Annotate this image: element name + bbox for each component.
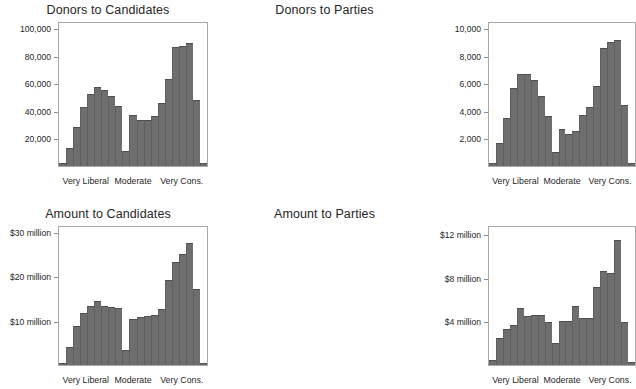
y-tick-label: $20 million xyxy=(0,272,51,282)
x-tick-label: Very Liberal xyxy=(63,375,109,385)
bar-series xyxy=(59,23,207,166)
plot-area xyxy=(58,226,208,366)
bar xyxy=(614,40,621,166)
chart-title: Donors to Parties xyxy=(216,3,433,17)
bar xyxy=(496,338,503,365)
bar xyxy=(66,148,73,166)
bar xyxy=(73,326,80,365)
y-tick-label: 40,000 xyxy=(0,107,51,117)
y-tick-label: 6,000 xyxy=(216,79,481,89)
bar xyxy=(158,309,165,365)
bar xyxy=(151,315,158,365)
y-tick-label: 60,000 xyxy=(0,79,51,89)
x-tick-label: Very Cons. xyxy=(160,375,203,385)
y-tick-label: 10,000 xyxy=(216,24,481,34)
y-tick-label: $30 million xyxy=(0,228,51,238)
bar xyxy=(545,322,552,365)
bar xyxy=(552,343,559,365)
chart-title: Amount to Candidates xyxy=(0,207,216,221)
bar xyxy=(614,240,621,365)
chart-panel-donors-to-parties: Donors to Parties2,0004,0006,0008,00010,… xyxy=(216,0,433,197)
bar xyxy=(572,306,579,365)
y-tick-mark xyxy=(54,84,58,85)
bar xyxy=(73,127,80,166)
bar xyxy=(115,106,122,166)
y-tick-label: 8,000 xyxy=(216,52,481,62)
bar xyxy=(144,120,151,166)
x-tick-label: Very Cons. xyxy=(160,176,203,186)
bar xyxy=(59,363,66,365)
y-tick-mark xyxy=(54,112,58,113)
bar xyxy=(503,329,510,365)
bar xyxy=(538,96,545,166)
bar xyxy=(144,316,151,365)
bar xyxy=(600,48,607,166)
bar xyxy=(122,350,129,365)
bar xyxy=(129,319,136,365)
bar xyxy=(115,308,122,365)
bar xyxy=(193,100,200,166)
bar xyxy=(586,318,593,365)
x-tick-label: Very Liberal xyxy=(63,176,109,186)
chart-title: Donors to Candidates xyxy=(0,3,216,17)
bar xyxy=(94,301,101,365)
bar xyxy=(489,360,496,365)
bar-series xyxy=(59,227,207,365)
bar-series xyxy=(489,227,635,365)
x-tick-label: Very Liberal xyxy=(492,176,538,186)
y-tick-mark xyxy=(484,235,488,236)
y-tick-mark xyxy=(54,277,58,278)
plot-area xyxy=(488,226,636,366)
y-tick-label: $4 million xyxy=(216,317,481,327)
bar xyxy=(165,280,172,365)
y-tick-mark xyxy=(54,139,58,140)
bar xyxy=(59,163,66,166)
bar xyxy=(101,90,108,166)
y-tick-label: 20,000 xyxy=(0,134,51,144)
bar xyxy=(628,362,635,365)
bar xyxy=(586,107,593,166)
y-tick-mark xyxy=(54,233,58,234)
bar xyxy=(80,313,87,365)
bar xyxy=(87,306,94,365)
chart-panel-amount-to-candidates: Amount to Candidates$10 million$20 milli… xyxy=(0,197,216,389)
bar xyxy=(559,129,566,166)
bar xyxy=(186,243,193,365)
bar xyxy=(172,47,179,166)
y-tick-mark xyxy=(484,139,488,140)
x-tick-label: Very Cons. xyxy=(589,176,632,186)
y-tick-label: 80,000 xyxy=(0,52,51,62)
bar xyxy=(621,105,628,166)
y-tick-mark xyxy=(484,84,488,85)
bar xyxy=(510,88,517,166)
bar xyxy=(538,315,545,365)
chart-title: Amount to Parties xyxy=(216,207,433,221)
y-tick-label: $10 million xyxy=(0,317,51,327)
bar xyxy=(552,152,559,166)
y-tick-label: $8 million xyxy=(216,274,481,284)
bar xyxy=(129,115,136,166)
bar xyxy=(200,363,207,365)
x-tick-label: Moderate xyxy=(114,176,151,186)
bar xyxy=(179,254,186,365)
y-tick-mark xyxy=(484,57,488,58)
bar xyxy=(193,289,200,365)
bar xyxy=(66,347,73,365)
bar xyxy=(94,87,101,166)
bar xyxy=(600,271,607,365)
bar xyxy=(531,315,538,365)
bar xyxy=(151,116,158,166)
bar xyxy=(122,151,129,166)
bar xyxy=(524,316,531,365)
y-tick-mark xyxy=(54,57,58,58)
bar xyxy=(108,307,115,365)
x-tick-label: Very Liberal xyxy=(492,375,538,385)
bar xyxy=(545,116,552,166)
bar xyxy=(137,120,144,166)
bar xyxy=(621,322,628,365)
y-tick-label: 2,000 xyxy=(216,134,481,144)
y-tick-mark xyxy=(54,29,58,30)
bar xyxy=(503,118,510,166)
plot-area xyxy=(488,22,636,167)
